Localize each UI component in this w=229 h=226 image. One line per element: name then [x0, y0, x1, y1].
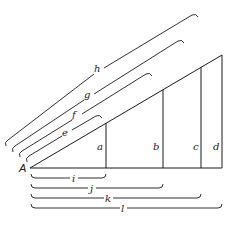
label-a: a: [97, 141, 103, 152]
svg-text:g: g: [84, 89, 90, 100]
bracket-i: i: [31, 173, 106, 184]
bracket-k: k: [31, 193, 201, 204]
label-d: d: [213, 141, 219, 152]
label-c: c: [193, 141, 199, 152]
svg-text:i: i: [72, 173, 75, 184]
svg-text:e: e: [62, 127, 68, 138]
svg-text:k: k: [105, 193, 111, 204]
vertex-label-a: A: [18, 162, 26, 174]
bracket-j: j: [31, 183, 163, 194]
label-b: b: [153, 141, 159, 152]
svg-text:l: l: [121, 203, 124, 214]
bracket-l: l: [31, 203, 222, 214]
bracket-e: e: [26, 115, 102, 162]
svg-text:j: j: [88, 183, 93, 194]
bracket-g: g: [12, 40, 184, 152]
similar-triangles-diagram: A a b c d e f g h i j k: [0, 0, 229, 226]
svg-text:f: f: [71, 109, 78, 120]
svg-text:h: h: [94, 63, 100, 74]
bracket-f: f: [19, 73, 152, 157]
